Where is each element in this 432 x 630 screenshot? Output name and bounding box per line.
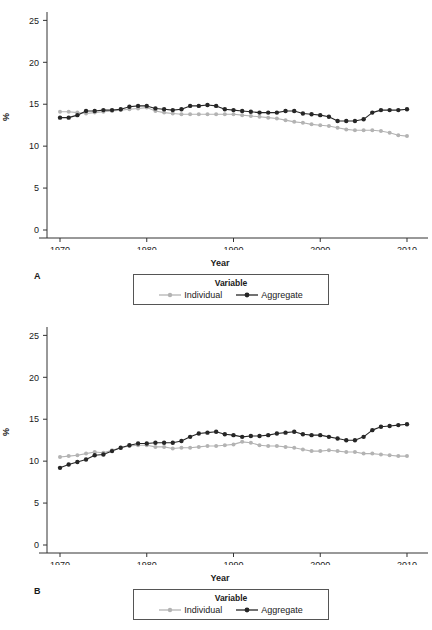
legend-item-individual[interactable]: Individual xyxy=(159,604,222,616)
svg-text:25: 25 xyxy=(29,16,39,26)
legend-label-individual: Individual xyxy=(184,604,222,616)
individual-key-icon xyxy=(159,290,181,300)
aggregate-key-icon xyxy=(236,605,258,615)
y-axis-label-a: % xyxy=(1,113,11,121)
legend-label-aggregate: Aggregate xyxy=(261,604,303,616)
legend-b: Variable Individual Aggregate xyxy=(133,589,329,620)
svg-text:25: 25 xyxy=(29,331,39,341)
svg-text:1990: 1990 xyxy=(223,560,243,565)
svg-text:1990: 1990 xyxy=(223,245,243,250)
svg-text:10: 10 xyxy=(29,141,39,151)
svg-text:15: 15 xyxy=(29,99,39,109)
aggregate-key-icon xyxy=(236,290,258,300)
legend-items-b: Individual Aggregate xyxy=(134,604,328,616)
svg-text:5: 5 xyxy=(34,498,39,508)
x-axis-label-a: Year xyxy=(0,258,432,268)
svg-text:5: 5 xyxy=(34,183,39,193)
legend-item-individual[interactable]: Individual xyxy=(159,289,222,301)
legend-label-aggregate: Aggregate xyxy=(261,289,303,301)
svg-text:1970: 1970 xyxy=(50,560,70,565)
legend-item-aggregate[interactable]: Aggregate xyxy=(236,289,303,301)
panel-b: 051015202519701980199020002010 % Year B … xyxy=(0,315,432,630)
svg-text:1980: 1980 xyxy=(137,245,157,250)
svg-text:2010: 2010 xyxy=(397,245,417,250)
figure-root: 051015202519701980199020002010 % Year A … xyxy=(0,0,432,630)
svg-text:15: 15 xyxy=(29,414,39,424)
legend-item-aggregate[interactable]: Aggregate xyxy=(236,604,303,616)
panel-letter-a: A xyxy=(34,271,41,281)
legend-items-a: Individual Aggregate xyxy=(134,289,328,301)
svg-text:20: 20 xyxy=(29,58,39,68)
legend-title-b: Variable xyxy=(134,592,328,604)
legend-title-a: Variable xyxy=(134,277,328,289)
x-axis-label-b: Year xyxy=(0,573,432,583)
individual-key-icon xyxy=(159,605,181,615)
y-axis-label-b: % xyxy=(1,428,11,436)
svg-text:0: 0 xyxy=(34,225,39,235)
panel-letter-b: B xyxy=(34,586,41,596)
legend-a: Variable Individual Aggregate xyxy=(133,274,329,305)
line-chart-b: 051015202519701980199020002010 xyxy=(0,315,432,565)
plot-area-a: 051015202519701980199020002010 xyxy=(0,0,432,250)
line-chart-a: 051015202519701980199020002010 xyxy=(0,0,432,250)
svg-text:2000: 2000 xyxy=(310,560,330,565)
panel-a: 051015202519701980199020002010 % Year A … xyxy=(0,0,432,315)
legend-label-individual: Individual xyxy=(184,289,222,301)
svg-text:2000: 2000 xyxy=(310,245,330,250)
svg-text:10: 10 xyxy=(29,456,39,466)
svg-text:1980: 1980 xyxy=(137,560,157,565)
svg-text:20: 20 xyxy=(29,373,39,383)
plot-area-b: 051015202519701980199020002010 xyxy=(0,315,432,565)
svg-text:0: 0 xyxy=(34,540,39,550)
svg-text:2010: 2010 xyxy=(397,560,417,565)
svg-text:1970: 1970 xyxy=(50,245,70,250)
